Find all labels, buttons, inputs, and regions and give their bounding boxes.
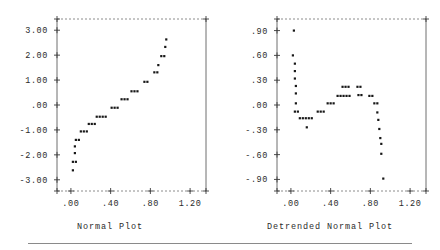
- data-point: [157, 64, 159, 66]
- x-tick-label: .00: [282, 199, 299, 209]
- detrended-normal-plot-caption: Detrended Normal Plot: [220, 222, 440, 232]
- data-point: [360, 94, 362, 96]
- data-point: [323, 111, 325, 113]
- data-point: [120, 98, 122, 100]
- x-tick-label: .40: [102, 199, 119, 209]
- data-point: [114, 107, 116, 109]
- data-point: [294, 77, 296, 79]
- data-point: [146, 81, 148, 83]
- data-point: [294, 111, 296, 113]
- data-point: [380, 143, 382, 145]
- data-point: [308, 117, 310, 119]
- data-point: [165, 38, 167, 40]
- scatter-points: [72, 38, 168, 171]
- data-point: [368, 95, 370, 97]
- data-point: [294, 70, 296, 72]
- x-tick-label: 1.20: [179, 199, 202, 209]
- data-point: [130, 90, 132, 92]
- data-point: [111, 107, 113, 109]
- data-point: [293, 29, 295, 31]
- data-point: [356, 86, 358, 88]
- y-tick-label: -2.00: [19, 151, 48, 161]
- data-point: [333, 102, 335, 104]
- data-point: [88, 123, 90, 125]
- data-point: [347, 86, 349, 88]
- data-point: [378, 128, 380, 130]
- data-point: [292, 54, 294, 56]
- data-point: [153, 71, 155, 73]
- data-point: [123, 98, 125, 100]
- x-tick-label: .80: [142, 199, 159, 209]
- data-point: [164, 46, 166, 48]
- x-tick-label: .40: [322, 199, 339, 209]
- data-point: [376, 111, 378, 113]
- detrended-normal-plot-canvas: .90.60.30.00-.30-.60-.90.00.40.801.20: [220, 0, 440, 250]
- data-point: [320, 111, 322, 113]
- data-point: [327, 102, 329, 104]
- data-point: [96, 116, 98, 118]
- y-tick-label: -.90: [245, 175, 268, 185]
- y-tick-label: .00: [31, 101, 48, 111]
- data-point: [339, 95, 341, 97]
- data-point: [156, 71, 158, 73]
- data-point: [83, 130, 85, 132]
- data-point: [380, 153, 382, 155]
- data-point: [371, 95, 373, 97]
- data-point: [305, 117, 307, 119]
- data-point: [342, 95, 344, 97]
- scatter-points: [292, 29, 385, 179]
- data-point: [302, 117, 304, 119]
- y-tick-label: .00: [251, 101, 268, 111]
- data-point: [382, 177, 384, 179]
- data-point: [306, 126, 308, 128]
- data-point: [344, 86, 346, 88]
- data-point: [74, 152, 76, 154]
- panel-detrended-normal-plot: .90.60.30.00-.30-.60-.90.00.40.801.20 De…: [220, 0, 440, 250]
- data-point: [126, 98, 128, 100]
- data-point: [163, 55, 165, 57]
- data-point: [359, 86, 361, 88]
- y-tick-label: .60: [251, 51, 268, 61]
- data-point: [116, 107, 118, 109]
- data-point: [74, 145, 76, 147]
- data-point: [357, 94, 359, 96]
- data-point: [75, 139, 77, 141]
- data-point: [99, 116, 101, 118]
- y-tick-label: -.30: [245, 126, 268, 136]
- data-point: [379, 137, 381, 139]
- data-point: [160, 55, 162, 57]
- x-tick-label: 1.20: [399, 199, 422, 209]
- data-point: [294, 63, 296, 65]
- data-point: [297, 111, 299, 113]
- x-tick-label: .00: [62, 199, 79, 209]
- y-tick-label: 2.00: [25, 51, 48, 61]
- data-point: [317, 111, 319, 113]
- x-tick-label: .80: [362, 199, 379, 209]
- data-point: [102, 116, 104, 118]
- data-point: [133, 90, 135, 92]
- data-point: [345, 95, 347, 97]
- data-point: [373, 102, 375, 104]
- y-tick-label: -1.00: [19, 126, 48, 136]
- data-point: [295, 102, 297, 104]
- data-point: [94, 123, 96, 125]
- data-point: [72, 161, 74, 163]
- y-tick-label: .90: [251, 27, 268, 37]
- data-point: [295, 85, 297, 87]
- normal-probability-plots-figure: 3.002.001.00.00-1.00-2.00-3.00.00.40.801…: [0, 0, 440, 250]
- data-point: [376, 102, 378, 104]
- data-point: [299, 117, 301, 119]
- data-point: [72, 169, 74, 171]
- data-point: [295, 92, 297, 94]
- y-tick-label: 1.00: [25, 76, 48, 86]
- y-tick-label: 3.00: [25, 26, 48, 36]
- data-point: [86, 130, 88, 132]
- panel-normal-plot: 3.002.001.00.00-1.00-2.00-3.00.00.40.801…: [0, 0, 220, 250]
- data-point: [377, 119, 379, 121]
- data-point: [136, 90, 138, 92]
- data-point: [78, 139, 80, 141]
- data-point: [80, 130, 82, 132]
- data-point: [105, 116, 107, 118]
- data-point: [330, 102, 332, 104]
- y-tick-label: .30: [251, 76, 268, 86]
